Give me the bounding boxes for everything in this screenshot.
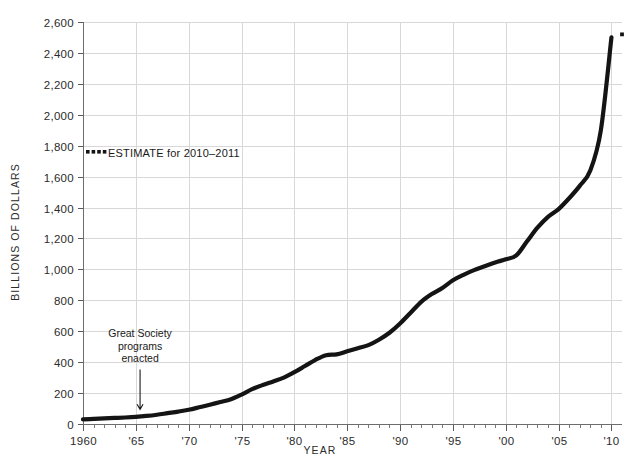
x-tick-label: 1960 <box>70 435 97 447</box>
y-tick-label: 600 <box>54 326 74 338</box>
estimate-dot <box>620 32 624 36</box>
y-tick-label: 2,400 <box>44 48 74 60</box>
y-tick-label: 1,200 <box>44 233 74 245</box>
legend: ESTIMATE for 2010–2011 <box>86 147 240 159</box>
x-tick-labels-group: 1960'65'70'75'80'85'90'95'00'05'10 <box>70 435 619 447</box>
annotation-arrow-icon <box>137 369 143 409</box>
legend-dot <box>103 150 107 154</box>
y-tick-labels-group: 02004006008001,0001,2001,4001,6001,8002,… <box>44 17 74 431</box>
x-tick-label: '70 <box>182 435 198 447</box>
y-tick-label: 200 <box>54 388 74 400</box>
y-tick-label: 1,600 <box>44 172 74 184</box>
x-tick-label: '80 <box>287 435 303 447</box>
y-tick-label: 800 <box>54 295 74 307</box>
y-tick-label: 1,000 <box>44 264 74 276</box>
y-tick-label: 1,800 <box>44 141 74 153</box>
y-tick-label: 400 <box>54 357 74 369</box>
x-tick-label: '65 <box>129 435 145 447</box>
x-tick-label: '90 <box>393 435 409 447</box>
great-society-annotation: Great Society programs enacted <box>108 327 172 409</box>
x-tick-label: '85 <box>340 435 356 447</box>
estimate-point-marker <box>620 32 624 36</box>
x-tick-label: '95 <box>446 435 462 447</box>
y-tick-label: 0 <box>67 419 74 431</box>
y-axis-title: BILLIONS OF DOLLARS <box>9 163 21 301</box>
legend-dot <box>86 150 90 154</box>
chart-container: 02004006008001,0001,2001,4001,6001,8002,… <box>0 0 631 462</box>
x-tick-label: '75 <box>235 435 251 447</box>
annotation-line-2: programs <box>118 340 162 352</box>
y-tick-label: 1,400 <box>44 203 74 215</box>
estimate-dotted-line-icon <box>86 150 106 154</box>
x-tick-label: '05 <box>552 435 568 447</box>
legend-item-estimate-label: ESTIMATE for 2010–2011 <box>108 147 240 159</box>
y-tick-label: 2,200 <box>44 79 74 91</box>
annotation-line-1: Great Society <box>108 327 172 339</box>
entitlement-spending-line-chart: 02004006008001,0001,2001,4001,6001,8002,… <box>0 0 631 462</box>
x-axis-title: YEAR <box>304 444 337 456</box>
legend-dot <box>97 150 101 154</box>
x-tick-label: '10 <box>604 435 620 447</box>
annotation-line-3: enacted <box>121 352 159 364</box>
legend-dot <box>92 150 96 154</box>
y-tick-label: 2,600 <box>44 17 74 29</box>
y-tick-label: 2,000 <box>44 110 74 122</box>
x-tick-label: '00 <box>499 435 515 447</box>
y-tick-marks-group <box>78 23 83 425</box>
